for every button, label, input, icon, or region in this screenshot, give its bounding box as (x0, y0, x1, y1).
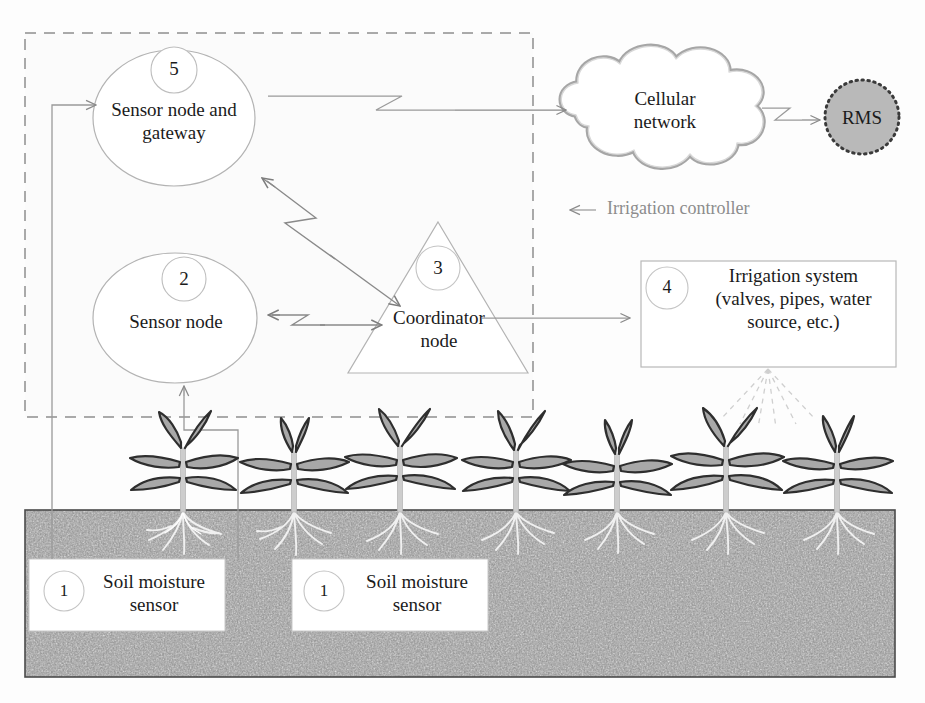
irrigation-system-badge-circle (646, 267, 688, 309)
diagram-canvas: 5 Sensor node and gateway 2 Sensor node … (0, 0, 925, 703)
diagram-svg (0, 0, 925, 703)
connector-cellular-to-rms (762, 108, 820, 120)
sensor-node-badge-circle (162, 257, 206, 301)
soil-sensor-left-badge-circle (44, 571, 84, 611)
rms-shape[interactable] (825, 80, 899, 154)
coordinator-node-badge-circle (416, 246, 460, 290)
cellular-network-shape[interactable] (561, 46, 763, 167)
soil-sensor-right-badge-circle (304, 571, 344, 611)
irrigation-water-spray (720, 369, 816, 428)
sensor-node-gateway-badge-circle (151, 47, 197, 93)
